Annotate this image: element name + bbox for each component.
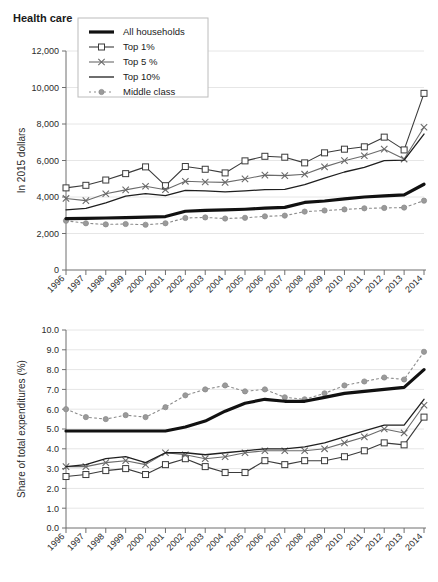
marker-top1 <box>83 472 89 478</box>
y-tick-label: 1.0 <box>46 504 59 514</box>
series-line-middle <box>66 201 424 225</box>
y-axis-title: In 2015 dollars <box>16 128 27 194</box>
series-all_households <box>66 184 424 218</box>
x-tick-label: 1998 <box>85 531 106 552</box>
x-tick-label: 2004 <box>204 273 225 294</box>
y-tick-label: 7.0 <box>46 385 59 395</box>
marker-middle <box>203 387 208 392</box>
marker-middle <box>103 222 108 227</box>
series-top5 <box>63 402 427 470</box>
marker-middle <box>99 89 104 94</box>
marker-middle <box>123 221 128 226</box>
marker-middle <box>242 215 247 220</box>
marker-top1 <box>381 440 387 446</box>
x-tick-label: 2009 <box>304 531 325 552</box>
y-tick-label: 2,000 <box>36 229 59 239</box>
marker-middle <box>223 216 228 221</box>
marker-top1 <box>421 90 427 96</box>
series-line-top1 <box>66 417 424 476</box>
series-top1 <box>63 414 427 479</box>
series-all_households <box>66 370 424 431</box>
x-tick-label: 2009 <box>304 273 325 294</box>
marker-middle <box>242 389 247 394</box>
marker-top1 <box>63 474 69 480</box>
x-tick-label: 2010 <box>324 531 345 552</box>
marker-top5 <box>381 146 387 152</box>
marker-top1 <box>83 182 89 188</box>
x-tick-label: 2005 <box>224 273 245 294</box>
series-top10 <box>66 134 424 210</box>
marker-top1 <box>302 160 308 166</box>
x-tick-label: 2002 <box>165 273 186 294</box>
y-tick-label: 4.0 <box>46 444 59 454</box>
legend: All householdsTop 1%Top 5 %Top 10%Middle… <box>78 18 208 97</box>
marker-middle <box>382 375 387 380</box>
marker-middle <box>342 383 347 388</box>
x-tick-label: 2000 <box>125 531 146 552</box>
legend-label-top1: Top 1% <box>123 41 155 52</box>
marker-middle <box>83 221 88 226</box>
marker-top1 <box>123 466 129 472</box>
chart-title: Health care <box>13 12 72 24</box>
marker-top1 <box>361 448 367 454</box>
x-tick-label: 2001 <box>145 273 166 294</box>
series-middle <box>63 349 426 422</box>
marker-top1 <box>123 171 129 177</box>
series-top1 <box>63 90 427 191</box>
y-tick-label: 2.0 <box>46 484 59 494</box>
marker-top1 <box>162 462 168 468</box>
x-tick-label: 2008 <box>284 531 305 552</box>
marker-middle <box>203 215 208 220</box>
marker-top1 <box>182 164 188 170</box>
y-tick-label: 9.0 <box>46 345 59 355</box>
marker-top1 <box>262 458 268 464</box>
y-tick-label: 5.0 <box>46 424 59 434</box>
x-tick-label: 2003 <box>184 273 205 294</box>
x-tick-label: 2012 <box>363 273 384 294</box>
series-line-top1 <box>66 93 424 188</box>
marker-middle <box>63 407 68 412</box>
marker-top1 <box>202 166 208 172</box>
x-tick-label: 2011 <box>344 531 365 552</box>
x-tick-label: 1996 <box>45 531 66 552</box>
marker-middle <box>362 379 367 384</box>
x-tick-label: 1999 <box>105 531 126 552</box>
marker-top1 <box>322 458 328 464</box>
x-tick-label: 2006 <box>244 531 265 552</box>
marker-middle <box>103 417 108 422</box>
marker-top1 <box>103 468 109 474</box>
marker-top1 <box>381 134 387 140</box>
marker-middle <box>143 415 148 420</box>
marker-top5 <box>321 164 327 170</box>
x-tick-label: 2011 <box>344 273 365 294</box>
marker-top1 <box>341 146 347 152</box>
marker-middle <box>282 395 287 400</box>
marker-top5 <box>341 440 347 446</box>
marker-middle <box>183 393 188 398</box>
marker-middle <box>421 198 426 203</box>
marker-middle <box>143 222 148 227</box>
x-tick-label: 2006 <box>244 273 265 294</box>
legend-label-all_households: All households <box>123 26 185 37</box>
x-tick-label: 2008 <box>284 273 305 294</box>
marker-middle <box>322 208 327 213</box>
x-tick-label: 2000 <box>125 273 146 294</box>
x-tick-label: 1997 <box>65 531 86 552</box>
x-tick-label: 1996 <box>45 273 66 294</box>
marker-top5 <box>421 124 427 130</box>
marker-top1 <box>202 464 208 470</box>
marker-top1 <box>361 144 367 150</box>
marker-top1 <box>103 177 109 183</box>
x-tick-label: 2014 <box>403 531 424 552</box>
marker-top1 <box>401 147 407 153</box>
marker-top1 <box>222 470 228 476</box>
marker-middle <box>163 221 168 226</box>
marker-top1 <box>143 472 149 478</box>
x-tick-label: 1998 <box>85 273 106 294</box>
marker-middle <box>342 207 347 212</box>
x-tick-label: 2010 <box>324 273 345 294</box>
y-tick-label: 12,000 <box>31 46 59 56</box>
x-tick-label: 1999 <box>105 273 126 294</box>
y-tick-label: 0.0 <box>46 523 59 533</box>
y-tick-label: 6,000 <box>36 156 59 166</box>
